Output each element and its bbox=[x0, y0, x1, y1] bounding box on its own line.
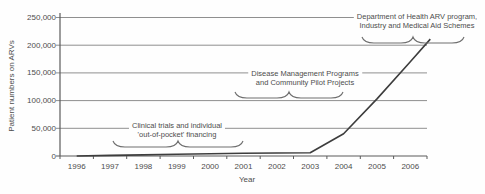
annotation-line: Disease Management Programs bbox=[251, 69, 359, 78]
y-tick-label: 250,000 bbox=[0, 13, 56, 22]
x-tick-label: 2002 bbox=[260, 162, 294, 171]
x-tick-label: 2005 bbox=[360, 162, 394, 171]
x-tick-label: 2000 bbox=[193, 162, 227, 171]
y-tick-label: 150,000 bbox=[0, 68, 56, 77]
x-tick-label: 2004 bbox=[327, 162, 361, 171]
annotation-line: and Community Pilot Projects bbox=[251, 78, 359, 87]
x-tick-label: 1998 bbox=[126, 162, 160, 171]
x-axis-title: Year bbox=[227, 175, 267, 184]
y-tick-label: 50,000 bbox=[0, 124, 56, 133]
x-tick-label: 1999 bbox=[160, 162, 194, 171]
y-tick-label: 0 bbox=[0, 152, 56, 161]
arv-patients-chart: Patient numbers on ARVs Year 050,000100,… bbox=[0, 0, 485, 194]
phase-brace bbox=[113, 141, 243, 147]
annotation-line: Industry and Medical Aid Schemes bbox=[357, 21, 477, 30]
x-tick-label: 1997 bbox=[93, 162, 127, 171]
x-tick-label: 1996 bbox=[60, 162, 94, 171]
y-tick-label: 200,000 bbox=[0, 41, 56, 50]
annotation-doh-arv-program: Department of Health ARV program, Indust… bbox=[354, 12, 480, 30]
phase-brace bbox=[362, 37, 464, 43]
annotation-disease-management: Disease Management Programs and Communit… bbox=[248, 69, 362, 87]
annotation-line: Department of Health ARV program, bbox=[357, 12, 477, 21]
y-tick-label: 100,000 bbox=[0, 96, 56, 105]
phase-brace bbox=[235, 92, 343, 98]
annotation-line: 'out-of-pocket' financing bbox=[132, 130, 222, 139]
annotation-line: Clinical trials and individual bbox=[132, 121, 222, 130]
x-tick-label: 2003 bbox=[293, 162, 327, 171]
x-tick-label: 2006 bbox=[393, 162, 427, 171]
annotation-clinical-trials: Clinical trials and individual 'out-of-p… bbox=[129, 121, 225, 139]
y-axis-title: Patient numbers on ARVs bbox=[7, 40, 16, 131]
x-tick-label: 2001 bbox=[227, 162, 261, 171]
